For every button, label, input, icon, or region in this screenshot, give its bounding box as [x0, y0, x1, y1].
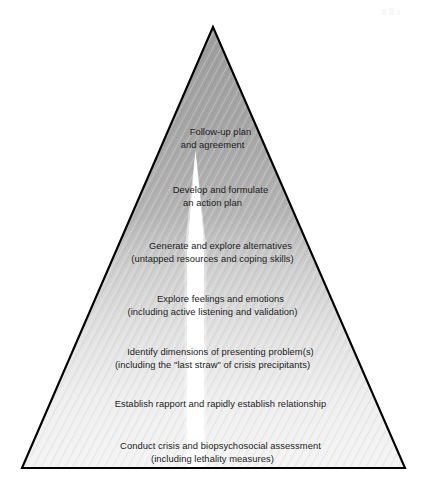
- tier-line-2: and agreement: [0, 139, 425, 151]
- tier-line-1: Explore feelings and emotions: [157, 293, 284, 304]
- tier-line-1: Follow-up plan: [190, 126, 252, 137]
- tier-line-1: Conduct crisis and biopsychosocial asses…: [120, 440, 321, 451]
- tier-line-2: (including active listening and validati…: [0, 306, 425, 318]
- tier-label-conduct-assessment: Conduct crisis and biopsychosocial asses…: [0, 428, 425, 490]
- tier-line-2: (including lethality measures): [0, 453, 425, 465]
- tier-label-establish-rapport: Establish rapport and rapidly establish …: [0, 386, 425, 423]
- tier-line-1: Develop and formulate: [173, 184, 268, 195]
- tier-line-2: an action plan: [0, 197, 425, 209]
- tier-line-2: (untapped resources and coping skills): [0, 253, 425, 265]
- tier-line-2: (including the "last straw" of crisis pr…: [0, 359, 425, 371]
- tier-label-follow-up-plan: Follow-up planand agreement: [0, 114, 425, 176]
- tier-line-1: Identify dimensions of presenting proble…: [127, 346, 314, 357]
- tier-line-1: Establish rapport and rapidly establish …: [115, 398, 327, 409]
- pyramid-labels: Follow-up planand agreement Develop and …: [0, 0, 425, 490]
- tier-label-develop-action-plan: Develop and formulatean action plan: [0, 172, 425, 234]
- scan-artifact-icon: [381, 6, 407, 16]
- figure-container: Follow-up planand agreement Develop and …: [0, 0, 425, 490]
- tier-line-1: Generate and explore alternatives: [149, 240, 292, 251]
